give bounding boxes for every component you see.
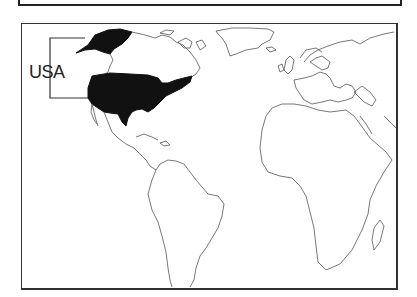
madagascar-outline [372,220,384,250]
usa-label: USA [29,62,65,83]
south-america-outline [148,160,224,287]
europe-outline [294,32,394,104]
middle-east-outline [354,86,396,134]
caribbean-outline [136,134,170,146]
usa-region [88,73,192,126]
africa-outline [260,104,392,270]
iceland-outline [266,47,276,52]
world-map [0,0,417,297]
canadian-islands-outline [160,30,206,50]
british-isles-outline [278,56,294,74]
greenland-outline [216,28,274,56]
alaska-region [76,29,132,54]
scandinavia-outline [300,48,322,58]
